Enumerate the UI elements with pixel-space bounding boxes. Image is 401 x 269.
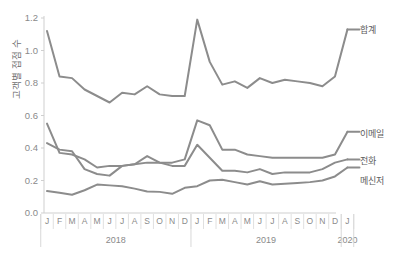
plot-area [0,0,401,269]
series-line-2 [47,143,347,176]
line-chart: 고객별 접점 수 0.00.20.40.60.81.01.2 JFMAMJJAS… [0,0,401,269]
series-line-0 [47,20,347,103]
